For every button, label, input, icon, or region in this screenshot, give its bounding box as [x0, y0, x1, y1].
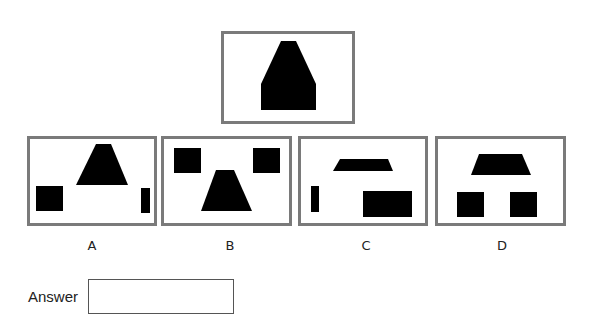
trapezoid-shape	[201, 170, 252, 211]
rectangle-shape	[174, 148, 201, 173]
option-label-d: D	[497, 238, 507, 253]
target-figure-shape	[221, 31, 355, 124]
answer-label: Answer	[28, 288, 78, 305]
option-figure	[161, 136, 292, 226]
option-panel-b[interactable]	[161, 136, 292, 226]
option-figure	[27, 136, 157, 226]
option-panel-d[interactable]	[435, 136, 566, 226]
option-label-b: B	[226, 238, 235, 253]
hexagon-shape	[261, 41, 316, 110]
option-panel-c[interactable]	[298, 136, 428, 226]
option-label-c: C	[361, 238, 370, 253]
option-panel-a[interactable]	[27, 136, 157, 226]
rectangle-shape	[510, 192, 537, 217]
option-figure	[298, 136, 428, 226]
option-figure	[435, 136, 566, 226]
trapezoid-shape	[76, 144, 128, 185]
option-label-a: A	[88, 238, 97, 253]
rectangle-shape	[311, 186, 319, 212]
answer-input[interactable]	[88, 279, 234, 314]
rectangle-shape	[457, 192, 484, 217]
rectangle-shape	[363, 191, 412, 217]
rectangle-shape	[36, 186, 63, 211]
target-figure-panel	[221, 31, 355, 124]
trapezoid-shape	[333, 159, 393, 171]
rectangle-shape	[253, 148, 280, 173]
rectangle-shape	[141, 188, 150, 213]
trapezoid-shape	[471, 154, 531, 175]
